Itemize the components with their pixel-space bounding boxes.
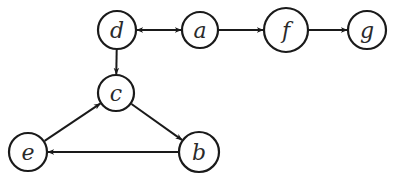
- node-label: c: [110, 81, 122, 106]
- node-a: a: [182, 12, 218, 48]
- node-g: g: [348, 11, 386, 49]
- node-label: e: [21, 140, 34, 165]
- node-b: b: [179, 132, 219, 172]
- node-d: d: [98, 11, 136, 49]
- node-label: g: [360, 18, 374, 43]
- nodes-layer: dafgceb: [9, 8, 386, 172]
- node-label: d: [110, 18, 124, 43]
- node-label: b: [192, 140, 206, 165]
- node-label: a: [193, 18, 206, 43]
- graph-diagram: dafgceb: [0, 0, 393, 174]
- node-c: c: [98, 75, 134, 111]
- node-f: f: [264, 8, 308, 52]
- edge-e-c-arrow: [45, 104, 101, 141]
- edge-c-b-arrow: [131, 104, 181, 140]
- node-e: e: [9, 133, 47, 171]
